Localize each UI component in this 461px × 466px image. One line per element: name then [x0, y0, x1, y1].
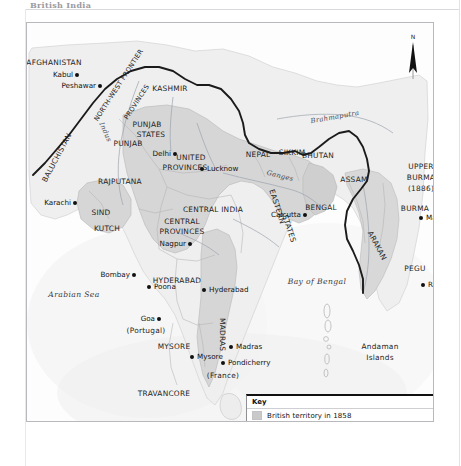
- map-sea-label: Arabian Sea: [48, 291, 99, 299]
- map-city-dot: [202, 288, 206, 292]
- map-city-label: Calcutta: [271, 211, 301, 218]
- map-city-label: Peshawar: [62, 82, 96, 89]
- map-city-dot: [98, 84, 102, 88]
- map-region-label: Andaman: [361, 343, 398, 350]
- map-region-label: MADRAS: [218, 318, 225, 351]
- north-arrow: N: [405, 33, 421, 81]
- key-row: British territory in 1858: [247, 409, 434, 422]
- map-region-label: MYSORE: [158, 343, 191, 350]
- map-region-label: KASHMIR: [152, 85, 187, 92]
- map-city-dot: [221, 361, 225, 365]
- map-region-label: PUNJAB: [132, 121, 161, 128]
- page-root: British India: [0, 0, 461, 466]
- map-region-label: RAJPUTANA: [98, 178, 142, 185]
- map-sea-label: Bay of Bengal: [288, 278, 347, 286]
- map-city-dot: [303, 213, 307, 217]
- map-figure: N AFGHANISTANBALUCHISTANNORTH-WEST FRONT…: [26, 22, 434, 422]
- map-key: Key British territory in 1858Acquisition…: [246, 394, 434, 422]
- north-arrow-icon: [405, 33, 421, 81]
- map-city-dot: [73, 201, 77, 205]
- map-city-dot: [173, 152, 177, 156]
- map-city-dot: [188, 242, 192, 246]
- map-city-dot: [132, 273, 136, 277]
- key-label: British territory in 1858: [267, 412, 351, 420]
- map-region-label: UPPER: [408, 163, 433, 170]
- map-city-dot: [147, 285, 151, 289]
- map-region-label: BURMA: [407, 174, 434, 181]
- map-region-label: BHUTAN: [302, 152, 334, 159]
- map-city-dot: [190, 355, 194, 359]
- map-city-label: Mandalay: [426, 214, 434, 221]
- map-city-dot: [200, 167, 204, 171]
- key-rows: British territory in 1858Acquisitions si…: [247, 409, 434, 422]
- map-region-label: BENGAL: [305, 204, 337, 211]
- map-city-label: Rangoon: [428, 281, 434, 288]
- map-city-dot: [75, 73, 79, 77]
- map-region-label: (France): [207, 372, 239, 379]
- map-city-label: Madras: [236, 343, 262, 350]
- map-region-label: TRAVANCORE: [138, 390, 190, 397]
- map-city-label: Kabul: [53, 71, 73, 78]
- map-region-label: PUNJAB: [113, 140, 142, 147]
- map-region-label: PROVINCES: [160, 228, 205, 235]
- map-city-label: Pondicherry: [228, 359, 271, 366]
- map-region-label: STATES: [137, 131, 166, 138]
- map-city-dot: [419, 216, 423, 220]
- map-city-dot: [229, 345, 233, 349]
- map-region-label: KUTCH: [94, 225, 120, 232]
- map-city-label: Lucknow: [207, 165, 238, 172]
- map-region-label: ASSAM: [340, 176, 367, 183]
- map-region-label: Islands: [366, 354, 394, 361]
- map-city-label: Karachi: [44, 199, 71, 206]
- map-city-dot: [421, 283, 425, 287]
- map-region-label: (Portugal): [127, 327, 166, 334]
- map-city-label: Delhi: [152, 150, 171, 157]
- key-swatch: [252, 411, 262, 420]
- top-caption: British India: [30, 0, 240, 8]
- map-region-label: AFGHANISTAN: [26, 59, 81, 66]
- right-divider: [459, 0, 460, 466]
- map-city-label: Hyderabad: [209, 286, 249, 293]
- top-divider: [26, 9, 459, 10]
- map-city-label: Bombay: [100, 271, 130, 278]
- map-region-label: CENTRAL: [164, 218, 200, 225]
- map-region-label: (1886): [408, 185, 434, 192]
- key-title: Key: [247, 396, 434, 409]
- map-region-label: BURMA: [401, 205, 429, 212]
- map-region-label: CENTRAL INDIA: [183, 206, 243, 213]
- map-region-label: PEGU: [404, 265, 425, 272]
- map-city-label: Poona: [154, 283, 176, 290]
- map-region-label: SIND: [91, 209, 110, 216]
- map-region-label: NEPAL: [246, 151, 271, 158]
- map-region-label: UNITED: [176, 154, 206, 161]
- map-city-dot: [157, 317, 161, 321]
- map-city-label: Goa: [141, 315, 155, 322]
- map-city-label: Mysore: [197, 353, 223, 360]
- map-city-label: Nagpur: [160, 240, 186, 247]
- north-arrow-label: N: [405, 33, 421, 40]
